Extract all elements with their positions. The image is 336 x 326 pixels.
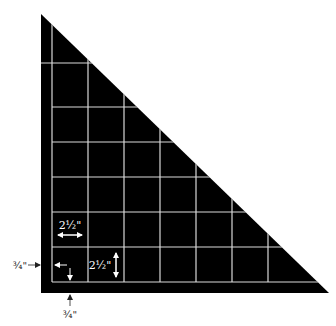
triangle-grid-diagram: 2½" 2½" ¾" ¾" — [0, 0, 336, 326]
bottom-seam-label: ¾" — [63, 309, 77, 320]
bottom-seam-annotation: ¾" — [63, 295, 77, 320]
fabric-triangle — [41, 14, 329, 293]
vertical-square-label: 2½" — [89, 259, 112, 272]
left-seam-annotation: ¾" — [13, 260, 40, 271]
left-seam-label: ¾" — [13, 260, 27, 271]
horizontal-square-label: 2½" — [59, 219, 82, 232]
